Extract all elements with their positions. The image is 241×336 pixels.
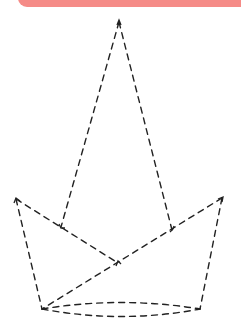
edge-left-side xyxy=(16,199,42,309)
edge-apex-inner-left xyxy=(61,22,119,227)
center-tick-icon xyxy=(116,261,121,266)
edge-right-top-bottom-left xyxy=(42,198,222,309)
bottom-lens-bottom xyxy=(42,309,200,317)
edge-left-top-center xyxy=(16,199,118,263)
bottom-lens-top xyxy=(42,303,200,310)
dashed-crown-figure xyxy=(0,0,241,336)
edge-right-side xyxy=(200,198,222,309)
edge-apex-inner-right xyxy=(119,22,172,230)
